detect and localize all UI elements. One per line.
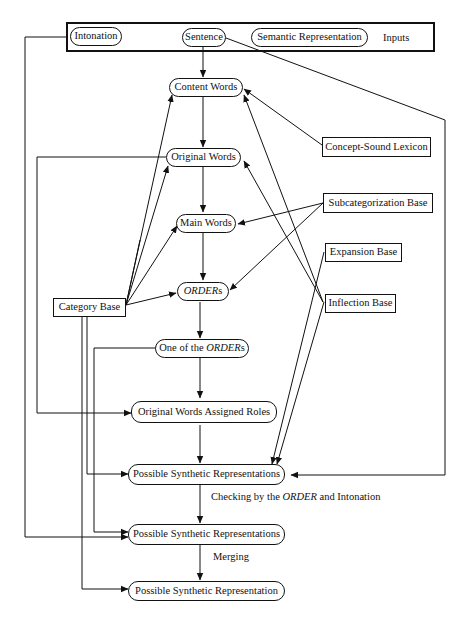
node-subcategorization-base[interactable]: Subcategorization Base [323, 193, 433, 213]
edge-inflection-psr1 [277, 302, 324, 464]
node-semantic-representation[interactable]: Semantic Representation [251, 28, 368, 47]
edge-oneof-psr2 [94, 348, 156, 532]
node-category-base[interactable]: Category Base [53, 298, 126, 317]
node-content-words[interactable]: Content Words [169, 78, 243, 97]
node-possible-synthetic-representation[interactable]: Possible Synthetic Representation [128, 581, 285, 601]
edge-lexicon-content [244, 89, 322, 145]
edge-category-original [126, 166, 168, 305]
edge-category-final [82, 315, 128, 589]
node-main-words[interactable]: Main Words [176, 214, 236, 233]
node-original-words[interactable]: Original Words [166, 148, 241, 167]
node-expansion-base[interactable]: Expansion Base [325, 243, 402, 262]
node-one-of-the-orders[interactable]: One of the ORDERs [155, 339, 249, 358]
edge-intonation-psr2 [25, 37, 128, 537]
edge-category-psr1 [87, 315, 128, 474]
edge-expansion-psr1 [272, 252, 324, 464]
node-orders[interactable]: ORDERs [177, 282, 229, 301]
node-intonation[interactable]: Intonation [70, 27, 122, 46]
inputs-label: Inputs [383, 32, 409, 43]
node-possible-synthetic-representations-1[interactable]: Possible Synthetic Representations [128, 464, 285, 485]
node-concept-sound-lexicon[interactable]: Concept-Sound Lexicon [322, 137, 431, 157]
edge-category-orders [126, 293, 176, 305]
edge-original-assigned [37, 157, 166, 413]
node-original-words-assigned-roles[interactable]: Original Words Assigned Roles [131, 401, 277, 423]
edge-category-main [126, 226, 177, 305]
edge-inflection-original [244, 161, 323, 302]
edge-inflection-content [244, 95, 323, 302]
node-inflection-base[interactable]: Inflection Base [325, 294, 396, 313]
edge-label-checking: Checking by the ORDER and Intonation [211, 491, 380, 502]
node-possible-synthetic-representations-2[interactable]: Possible Synthetic Representations [128, 524, 285, 545]
node-sentence[interactable]: Sentence [182, 28, 226, 47]
edge-label-merging: Merging [213, 551, 249, 562]
edge-subcat-main [238, 203, 323, 224]
